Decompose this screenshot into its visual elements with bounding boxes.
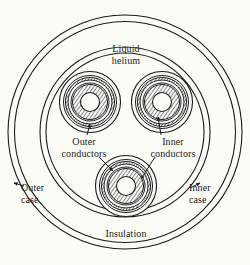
- label-outer-case: Outer case: [21, 182, 63, 205]
- conductor-bc-bore: [117, 177, 136, 196]
- label-inner-conductors: Inner conductors: [136, 136, 210, 159]
- label-insulation: Insulation: [88, 228, 164, 240]
- label-outer-conductors: Outer conductors: [47, 136, 121, 159]
- label-inner-case: Inner case: [189, 182, 233, 205]
- conductor-ul-bore: [81, 93, 100, 112]
- cable-cross-section-figure: Liquid helium Outer conductors Inner con…: [0, 0, 250, 265]
- conductor-ur-bore: [153, 93, 172, 112]
- conductor-upper-left: [60, 72, 121, 133]
- label-liquid-helium: Liquid helium: [96, 43, 156, 66]
- conductor-upper-right: [132, 72, 193, 133]
- conductor-bottom-center: [96, 156, 157, 217]
- cross-section-drawing: [0, 0, 250, 265]
